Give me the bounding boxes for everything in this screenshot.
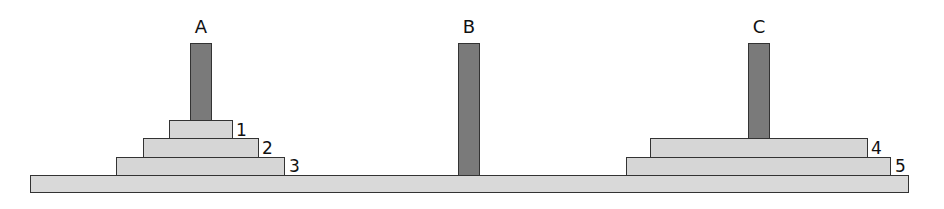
tower-of-hanoi-diagram: A B C 1 2 3 4 5: [0, 0, 944, 209]
disk-2: [143, 138, 259, 158]
disk-label-4: 4: [871, 139, 882, 157]
peg-label-b: B: [454, 17, 484, 37]
peg-c: [748, 43, 770, 140]
disk-label-1: 1: [236, 121, 247, 139]
disk-label-5: 5: [895, 157, 906, 175]
disk-4: [650, 138, 868, 158]
peg-label-c: C: [744, 17, 774, 37]
disk-label-3: 3: [289, 157, 300, 175]
disk-1: [169, 120, 233, 139]
peg-b: [458, 43, 480, 177]
peg-label-a: A: [186, 17, 216, 37]
peg-a: [190, 43, 212, 122]
disk-5: [626, 157, 891, 176]
disk-3: [116, 157, 285, 176]
disk-label-2: 2: [262, 139, 273, 157]
base-board: [30, 175, 909, 193]
